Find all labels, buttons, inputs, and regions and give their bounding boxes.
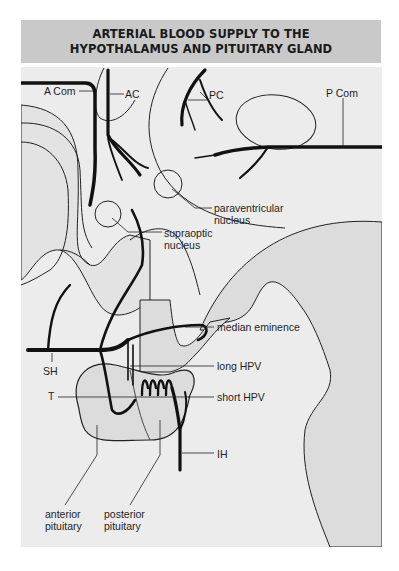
label-a-com: A Com [44,85,76,97]
label-supraoptic-line1: supraoptic [164,227,212,239]
label-posterior-line2: pituitary [104,520,145,532]
label-sh: SH [43,365,58,377]
label-anterior-line2: pituitary [45,520,82,532]
label-t: T [48,390,54,402]
label-short-hpv: short HPV [217,391,265,403]
label-posterior-line1: posterior [104,508,145,520]
label-paraventricular-line2: nucleus [214,214,283,226]
label-paraventricular-line1: paraventricular [214,202,283,214]
label-posterior-pituitary: posterior pituitary [104,508,145,532]
diagram-panel: A Com AC PC P Com paraventricular nucleu… [21,67,382,547]
label-median-eminence: median eminence [217,321,300,333]
label-supraoptic-line2: nucleus [164,239,212,251]
label-paraventricular-nucleus: paraventricular nucleus [214,202,283,226]
label-anterior-line1: anterior [45,508,82,520]
label-pc: PC [209,89,224,101]
label-anterior-pituitary: anterior pituitary [45,508,82,532]
anatomy-illustration [21,67,382,547]
title-line-2: HYPOTHALAMUS AND PITUITARY GLAND [70,42,333,57]
label-p-com: P Com [326,87,358,99]
label-long-hpv: long HPV [217,360,261,372]
title-band: ARTERIAL BLOOD SUPPLY TO THE HYPOTHALAMU… [21,20,381,63]
label-ac: AC [125,88,140,100]
title-line-1: ARTERIAL BLOOD SUPPLY TO THE [92,27,309,42]
supraoptic-circle [95,201,121,227]
label-supraoptic-nucleus: supraoptic nucleus [164,227,212,251]
label-ih: IH [217,448,228,460]
